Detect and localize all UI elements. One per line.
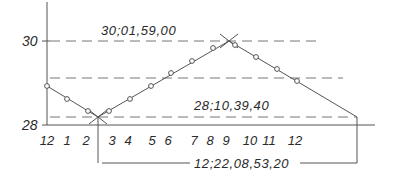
curve-point [233, 43, 238, 48]
curve-point [295, 79, 300, 84]
y-label-30: 30 [22, 33, 38, 49]
curve-point [107, 109, 112, 114]
month-label: 8 [206, 133, 214, 148]
zigzag-function-diagram: 30 28 12123456789101112 30;01,59,00 28;1… [0, 0, 393, 188]
month-labels: 12123456789101112 [40, 133, 303, 148]
curve-point [254, 55, 259, 60]
month-label: 11 [262, 133, 276, 148]
curve-point [65, 97, 70, 102]
month-label: 12 [288, 133, 303, 148]
curve-point [45, 84, 50, 89]
month-label: 10 [243, 133, 258, 148]
month-label: 4 [124, 133, 131, 148]
curve-point [86, 109, 91, 114]
period-label: 12;22,08,53,20 [194, 156, 289, 171]
curve-point [211, 46, 216, 51]
month-label: 7 [190, 133, 198, 148]
month-label: 1 [63, 133, 70, 148]
y-label-28: 28 [21, 117, 38, 133]
curve-point [190, 59, 195, 64]
curve-point [128, 97, 133, 102]
month-label: 9 [222, 133, 229, 148]
diagram-svg: 30 28 12123456789101112 30;01,59,00 28;1… [0, 0, 393, 188]
curve-point [169, 71, 174, 76]
curve-point [149, 84, 154, 89]
month-label: 12 [40, 133, 55, 148]
min-value-label: 28;10,39,40 [193, 98, 269, 113]
month-label: 6 [164, 133, 172, 148]
curve-point [275, 67, 280, 72]
month-label: 5 [148, 133, 156, 148]
max-value-label: 30;01,59,00 [101, 23, 176, 38]
month-label: 3 [108, 133, 116, 148]
month-label: 2 [81, 133, 90, 148]
